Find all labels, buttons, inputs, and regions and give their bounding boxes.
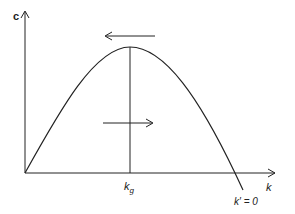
k-dot-zero-curve	[25, 47, 243, 190]
x-axis-label: k	[266, 182, 272, 193]
phase-diagram	[0, 0, 295, 214]
y-axis-label: c	[13, 11, 19, 22]
kg-label: kg	[124, 181, 134, 195]
kg-label-sub: g	[130, 186, 134, 195]
nullcline-label: k′ = 0	[234, 197, 258, 207]
